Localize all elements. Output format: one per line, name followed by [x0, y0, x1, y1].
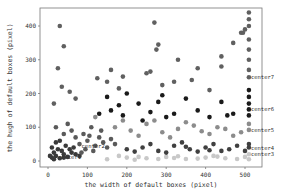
data-point [243, 155, 248, 160]
data-point [144, 122, 149, 127]
data-point [172, 79, 177, 84]
data-point [48, 154, 53, 159]
data-point [71, 145, 76, 150]
data-point [247, 17, 252, 22]
data-point [140, 118, 145, 123]
x-tick-label: 0 [46, 171, 50, 178]
center-label: center4 [251, 145, 275, 151]
y-tick-label: 300 [25, 56, 36, 63]
data-point [121, 113, 126, 118]
y-axis-ticks: 0100200300400 [25, 22, 40, 164]
data-point [190, 78, 195, 83]
data-point [192, 123, 197, 128]
data-point [207, 88, 212, 93]
data-point [125, 91, 130, 96]
y-tick-label: 400 [25, 22, 36, 29]
data-point [105, 145, 110, 150]
y-tick-label: 100 [25, 123, 36, 130]
data-point [156, 149, 161, 154]
data-point [156, 157, 161, 162]
data-point [235, 157, 240, 162]
data-point [219, 149, 224, 154]
data-point [136, 101, 141, 106]
data-point [184, 145, 189, 150]
data-point [199, 129, 204, 134]
data-point [215, 125, 220, 130]
data-point [231, 112, 236, 117]
data-point [148, 142, 153, 147]
data-point [168, 135, 173, 140]
data-point [73, 135, 78, 140]
data-point [223, 156, 228, 161]
data-point [117, 154, 122, 159]
data-point [176, 127, 181, 132]
data-point [87, 133, 92, 138]
data-point [160, 83, 165, 88]
data-point [63, 144, 68, 149]
data-point [172, 156, 177, 161]
data-point [247, 88, 252, 93]
data-point [93, 115, 98, 120]
data-point [195, 156, 200, 161]
data-point [195, 66, 200, 71]
center-label: center2 [82, 143, 105, 149]
data-point [227, 147, 232, 152]
data-point [176, 58, 181, 63]
data-point [247, 68, 252, 73]
data-point [117, 86, 122, 91]
x-tick-label: 200 [121, 171, 132, 178]
data-point [54, 125, 59, 130]
data-point [105, 79, 110, 84]
x-tick-label: 400 [200, 171, 211, 178]
data-point [219, 100, 224, 105]
data-point [148, 69, 153, 74]
data-point [109, 137, 114, 142]
data-point [247, 157, 252, 162]
data-point [62, 132, 67, 137]
data-point [164, 115, 169, 120]
data-point [215, 154, 220, 159]
data-point [89, 125, 94, 130]
x-axis-label: the width of default boxes (pixel) [84, 181, 217, 189]
center-label: center3 [251, 151, 274, 157]
center-label: center6 [251, 106, 274, 112]
data-points [48, 10, 252, 162]
data-point [195, 108, 200, 113]
data-point [207, 115, 212, 120]
center-label: center1 [58, 154, 81, 160]
data-point [184, 96, 189, 101]
data-point [180, 140, 185, 145]
data-point [247, 101, 252, 106]
data-point [188, 147, 193, 152]
data-point [247, 37, 252, 42]
data-point [207, 132, 212, 137]
data-point [211, 142, 216, 147]
data-point [247, 95, 252, 100]
data-point [97, 112, 102, 117]
data-point [121, 74, 126, 79]
data-point [97, 135, 102, 140]
data-point [231, 133, 236, 138]
data-point [125, 155, 130, 160]
data-point [62, 44, 67, 49]
data-point [231, 41, 236, 46]
data-point [81, 132, 86, 137]
data-point [50, 145, 55, 150]
data-point [60, 85, 65, 90]
data-point [132, 149, 137, 154]
data-point [247, 113, 252, 118]
data-point [152, 20, 157, 25]
data-point [52, 157, 57, 162]
data-point [105, 157, 110, 162]
data-point [52, 101, 57, 106]
data-point [69, 128, 74, 133]
x-tick-label: 500 [240, 171, 251, 178]
data-point [73, 96, 78, 101]
y-tick-label: 0 [32, 157, 36, 164]
data-point [247, 10, 252, 15]
data-point [58, 24, 63, 29]
data-point [239, 130, 244, 135]
scatter-chart: 0100200300400500 0100200300400 center1ce… [0, 0, 287, 196]
data-point [152, 118, 157, 123]
data-point [219, 54, 224, 59]
